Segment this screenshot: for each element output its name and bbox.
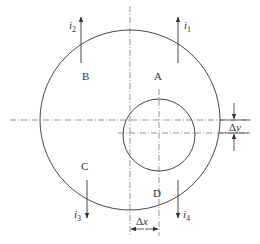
current-label-i2: i2 [69, 19, 76, 34]
dx-label: Δx [136, 215, 148, 227]
region-label-d: D [153, 187, 161, 199]
region-label-b: B [82, 70, 89, 82]
current-label-i3: i3 [74, 208, 81, 223]
region-label-c: C [81, 160, 88, 172]
current-label-i4: i4 [183, 208, 190, 223]
eccentricity-diagram: i2 i1 i3 i4 A B C D Δy Δx [0, 0, 260, 244]
region-label-a: A [154, 70, 162, 82]
current-label-i1: i1 [184, 19, 191, 34]
dy-label: Δy [229, 121, 241, 133]
